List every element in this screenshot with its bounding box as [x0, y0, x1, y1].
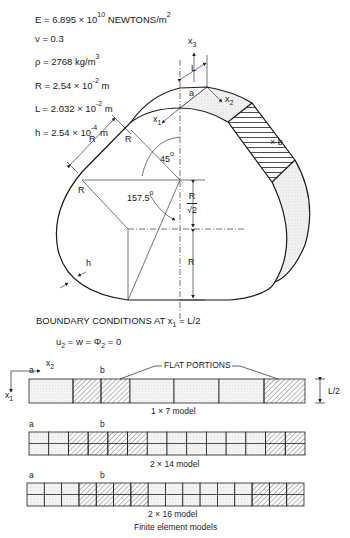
element-cell: [101, 379, 130, 403]
model-2x14-strip: [29, 432, 305, 455]
model3-point-a: a: [29, 470, 34, 480]
model3-point-b: b: [100, 470, 105, 480]
model-2x16-strip: [27, 483, 304, 506]
model2-point-a: a: [29, 419, 34, 429]
model1-caption: 1 × 7 model: [151, 406, 196, 416]
axis-x1-model-label: x1: [5, 390, 13, 402]
element-cell: [130, 379, 174, 403]
model3-caption: 2 × 16 model: [148, 509, 197, 519]
figure-caption: Finite element models: [134, 522, 217, 532]
finite-element-models-drawing: [0, 0, 350, 538]
model-1x7-strip: [29, 379, 305, 403]
model1-point-a: a: [29, 365, 34, 375]
model1-point-b: b: [100, 365, 105, 375]
flat-portions-label: FLAT PORTIONS: [164, 360, 231, 370]
model2-caption: 2 × 14 model: [150, 459, 199, 469]
element-cell: [264, 379, 305, 403]
axis-x2-model-label: x2: [46, 358, 54, 370]
element-cell: [174, 379, 219, 403]
element-cell: [29, 379, 73, 403]
model2-point-b: b: [100, 419, 105, 429]
element-cell: [219, 379, 264, 403]
dim-L2-label: L/2: [328, 386, 340, 396]
element-cell: [73, 379, 101, 403]
